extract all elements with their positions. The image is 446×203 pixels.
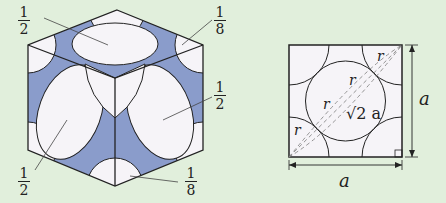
radius-label-3: r (323, 96, 330, 112)
cell-face-square (249, 5, 442, 197)
label-corner-eighth-bottom: 18 (185, 166, 197, 197)
radius-label-1: r (377, 48, 384, 64)
label-right-face-half: 12 (214, 80, 226, 111)
label-top-face-half: 12 (18, 5, 30, 36)
denominator: 2 (20, 22, 29, 36)
label-corner-eighth-top: 18 (214, 5, 226, 36)
numerator: 1 (216, 80, 225, 94)
radius-label-2: r (349, 72, 356, 88)
label-left-face-half: 12 (18, 166, 30, 197)
denominator: 8 (187, 183, 196, 197)
side-label-bottom: a (339, 170, 350, 191)
numerator: 1 (20, 166, 29, 180)
denominator: 8 (216, 22, 225, 36)
radius-label-4: r (294, 122, 301, 138)
numerator: 1 (216, 5, 225, 19)
denominator: 2 (20, 183, 29, 197)
top-face-sphere (72, 23, 158, 65)
diagonal-label: √2 a (346, 104, 381, 123)
side-label-right: a (419, 88, 430, 109)
numerator: 1 (20, 5, 29, 19)
denominator: 2 (216, 97, 225, 111)
numerator: 1 (187, 166, 196, 180)
